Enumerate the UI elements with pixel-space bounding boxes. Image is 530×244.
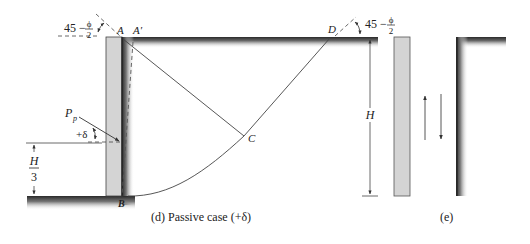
- delta-label: +δ: [76, 128, 87, 140]
- point-c-label: C: [248, 132, 256, 144]
- point-a-prime-label: A′: [132, 24, 143, 36]
- angle-label-left-two: 2: [87, 30, 92, 40]
- angle-label-right-two: 2: [389, 26, 394, 36]
- wall-e: [394, 37, 410, 196]
- height-label: H: [365, 108, 376, 122]
- panel-d: 45 − ϕ 2 A A′ B C D 45 − ϕ 2 P p +δ H 3 …: [26, 14, 395, 210]
- angle-label-right-phi: ϕ: [389, 15, 394, 25]
- point-a-label: A: [116, 24, 124, 36]
- backfill-wall-side: [122, 37, 134, 205]
- angle-label-left: 45 −: [64, 21, 86, 35]
- failure-line-ac: [123, 39, 244, 136]
- angle-label-left-phi: ϕ: [87, 19, 92, 29]
- panel-e: [394, 37, 506, 196]
- retaining-wall: [106, 37, 122, 196]
- failure-surface-bcd: [128, 38, 330, 196]
- force-subscript: p: [72, 114, 77, 123]
- angle-arc-left: [98, 23, 104, 32]
- h3-label-numerator: H: [29, 154, 40, 168]
- backfill-top-surface: [122, 37, 378, 48]
- point-d-label: D: [327, 23, 336, 35]
- delta-angle-arc: [93, 128, 95, 139]
- force-label: P: [64, 106, 73, 120]
- angle-dashed-line-right: [335, 17, 356, 36]
- point-b-label: B: [117, 198, 125, 209]
- retaining-wall-diagram: 45 − ϕ 2 A A′ B C D 45 − ϕ 2 P p +δ H 3 …: [0, 0, 530, 244]
- caption-panel-e: (e): [440, 210, 453, 225]
- backfill-e-side: [456, 37, 468, 196]
- caption-panel-d: (d) Passive case (+δ): [151, 210, 251, 225]
- angle-label-right: 45 −: [365, 17, 387, 31]
- angle-arc-right: [355, 22, 360, 34]
- h3-label-denominator: 3: [31, 170, 37, 184]
